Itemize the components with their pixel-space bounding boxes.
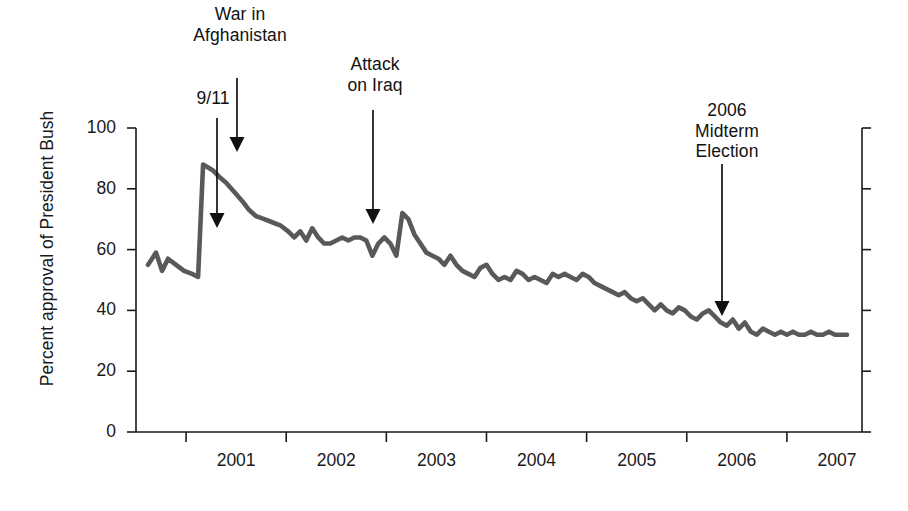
- x-tick-label: 2005: [602, 450, 672, 471]
- annotation-label-september-eleven: 9/11: [158, 88, 268, 109]
- x-tick-label: 2003: [401, 450, 471, 471]
- x-tick-label: 2001: [201, 450, 271, 471]
- right-axis-ticks: [862, 128, 871, 432]
- annotation-label-iraq: Attack on Iraq: [318, 54, 432, 95]
- annotation-arrow-head-afghanistan: [230, 137, 245, 152]
- approval-line-series: [148, 164, 847, 334]
- annotation-arrow-head-iraq: [366, 209, 381, 224]
- annotation-arrow-head-september-eleven: [210, 213, 225, 228]
- approval-rating-chart: Percent approval of President Bush 02040…: [0, 0, 908, 511]
- y-tick-label: 0: [74, 421, 116, 442]
- x-tick-label: 2004: [502, 450, 572, 471]
- annotation-label-afghanistan: War in Afghanistan: [152, 4, 328, 45]
- y-tick-label: 20: [74, 360, 116, 381]
- annotation-arrow-head-midterm: [715, 301, 730, 316]
- y-tick-label: 60: [74, 239, 116, 260]
- x-tick-label: 2007: [802, 450, 872, 471]
- annotation-label-midterm: 2006 Midterm Election: [652, 100, 802, 162]
- x-axis-ticks: [186, 432, 787, 442]
- x-tick-label: 2002: [301, 450, 371, 471]
- y-axis-ticks: [127, 128, 136, 432]
- y-axis-title: Percent approval of President Bush: [37, 84, 58, 414]
- y-tick-label: 80: [74, 178, 116, 199]
- y-tick-label: 100: [74, 117, 116, 138]
- y-tick-label: 40: [74, 299, 116, 320]
- chart-canvas: [0, 0, 908, 511]
- x-tick-label: 2006: [702, 450, 772, 471]
